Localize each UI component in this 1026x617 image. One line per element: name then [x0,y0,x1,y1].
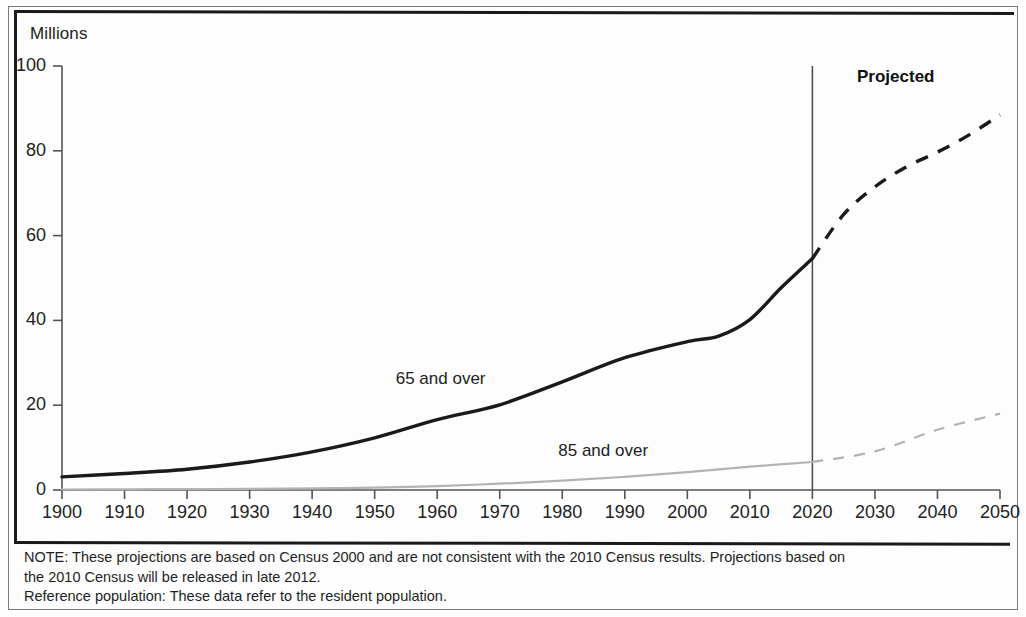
x-axis-tick-label: 1910 [90,502,160,523]
series-line-projected-1 [812,414,1000,462]
y-axis-tick-label: 20 [0,394,46,415]
x-axis-tick-label: 1920 [152,502,222,523]
projected-region-label: Projected [857,67,934,87]
x-axis-tick-label: 2050 [965,502,1026,523]
x-axis-tick-label: 1960 [402,502,472,523]
x-axis-tick-label: 1950 [340,502,410,523]
y-axis-tick-label: 40 [0,309,46,330]
y-axis-tick-label: 0 [0,479,46,500]
x-axis-tick-label: 1990 [590,502,660,523]
x-axis-tick-label: 1940 [277,502,347,523]
x-axis-tick-label: 1980 [527,502,597,523]
series-label-0: 65 and over [396,369,486,389]
x-axis-tick-label: 2030 [840,502,910,523]
note-line-1: NOTE: These projections are based on Cen… [24,548,996,568]
series-line-projected-0 [812,115,1000,259]
series-line-actual-1 [62,462,812,489]
y-axis-tick-label: 100 [0,55,46,76]
figure-container: Millions 020406080100 190019101920193019… [0,0,1026,617]
chart-plot-area [0,0,1026,617]
note-line-3: Reference population: These data refer t… [24,587,996,607]
x-axis-tick-label: 2020 [777,502,847,523]
note-line-2: the 2010 Census will be released in late… [24,568,996,588]
y-axis-tick-label: 60 [0,225,46,246]
x-axis-tick-label: 2040 [902,502,972,523]
x-axis-tick-label: 1900 [27,502,97,523]
x-axis-tick-label: 2010 [715,502,785,523]
x-axis-tick-label: 1970 [465,502,535,523]
figure-notes: NOTE: These projections are based on Cen… [24,548,996,607]
x-axis-tick-label: 2000 [652,502,722,523]
x-axis-tick-label: 1930 [215,502,285,523]
y-axis-tick-label: 80 [0,140,46,161]
series-line-actual-0 [62,259,812,477]
series-label-1: 85 and over [558,441,648,461]
